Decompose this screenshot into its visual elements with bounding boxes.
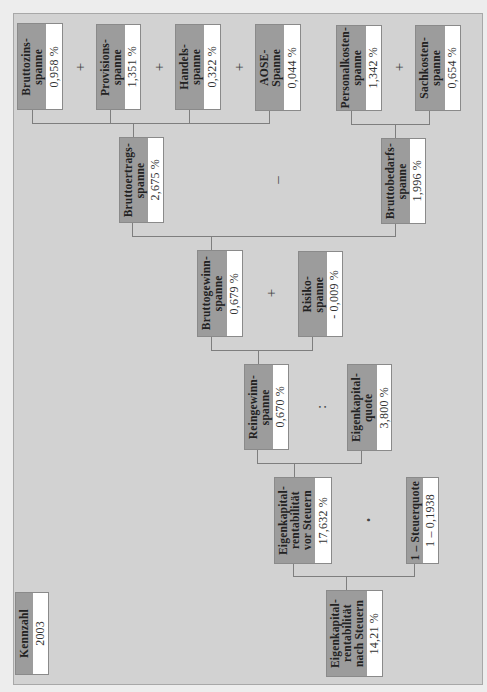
node-ek-rentabilitaet-vor-steuern: Eigenkapital- rentabilität vor Steuern 1… xyxy=(274,477,332,564)
node-value: 3,800 % xyxy=(378,387,391,428)
node-reingewinnspanne: Reingewinn- spanne 0,670 % xyxy=(244,364,289,450)
legend-kennzahl: Kennzahl 2003 xyxy=(15,592,49,675)
plus-operator: + xyxy=(232,60,246,74)
node-value: 17,632 % xyxy=(317,497,330,545)
legend-label: Kennzahl xyxy=(18,609,30,658)
node-value: 1 – 0,1938 xyxy=(424,494,437,547)
node-label: Risiko- spanne xyxy=(301,276,325,313)
node-value: 0,322 % xyxy=(206,46,219,87)
connector xyxy=(351,124,430,125)
node-value: 0,679 % xyxy=(228,273,241,314)
node-value: 0,654 % xyxy=(446,47,459,88)
node-risikospanne: Risiko- spanne - 0,009 % xyxy=(298,251,343,337)
node-bruttogewinnspanne: Bruttogewinn- spanne 0,679 % xyxy=(197,250,243,337)
node-value: 0,670 % xyxy=(274,386,287,427)
node-value: 1,342 % xyxy=(367,47,380,88)
node-value: 0,044 % xyxy=(286,47,299,88)
node-label: Provisions- spanne xyxy=(99,39,123,96)
node-personalkostenspanne: Personalkosten- spanne 1,342 % xyxy=(336,25,382,111)
connector xyxy=(395,124,396,138)
connector xyxy=(312,337,313,350)
connector xyxy=(32,123,270,124)
connector xyxy=(110,110,111,124)
plus-operator: + xyxy=(152,60,166,74)
node-value: - 0,009 % xyxy=(328,270,341,319)
plus-operator: + xyxy=(264,286,278,300)
node-label: 1 – Steuerquote xyxy=(409,481,421,560)
connector xyxy=(361,451,362,463)
connector xyxy=(351,111,352,125)
node-label: Personalkosten- spanne xyxy=(339,27,363,109)
connector xyxy=(132,236,396,237)
node-ek-rentabilitaet-nach-steuern: Eigenkapital- rentabilität nach Steuern … xyxy=(326,590,383,677)
node-value: 2,675 % xyxy=(149,159,162,200)
connector xyxy=(133,123,134,137)
node-steuerquote: 1 – Steuerquote 1 – 0,1938 xyxy=(406,477,439,564)
node-provisionsspanne: Provisions- spanne 1,351 % xyxy=(96,24,141,110)
node-label: Eigenkapital- rentabilität nach Steuern xyxy=(329,599,365,668)
node-label: AOSE- Spanne xyxy=(258,49,282,87)
node-label: Bruttobedarfs- spanne xyxy=(384,143,408,219)
node-sachkostenspanne: Sachkosten- spanne 0,654 % xyxy=(415,25,461,111)
node-bruttobedarfsspanne: Bruttobedarfs- spanne 1,996 % xyxy=(381,138,426,224)
connector xyxy=(257,463,362,464)
node-value: 0,958 % xyxy=(48,46,61,87)
connector xyxy=(132,223,133,237)
connector xyxy=(293,576,415,577)
node-label: Bruttozins- spanne xyxy=(20,38,44,96)
plus-operator: + xyxy=(73,60,87,74)
plus-operator: + xyxy=(392,60,406,74)
node-handelsspanne: Handels- spanne 0,322 % xyxy=(175,24,221,110)
connector xyxy=(429,111,430,125)
node-aose-spanne: AOSE- Spanne 0,044 % xyxy=(255,24,301,111)
connector xyxy=(189,110,190,124)
connector xyxy=(211,236,212,250)
node-value: 14,21 % xyxy=(368,613,381,654)
divide-operator: : xyxy=(314,400,328,414)
node-label: Eigenkapital- quote xyxy=(350,373,374,442)
node-value: 1,996 % xyxy=(411,160,424,201)
node-label: Bruttogewinn- spanne xyxy=(200,256,224,330)
node-eigenkapitalquote: Eigenkapital- quote 3,800 % xyxy=(347,364,392,451)
node-label: Sachkosten- spanne xyxy=(418,37,442,99)
connector xyxy=(346,576,347,590)
node-bruttozinsspanne: Bruttozins- spanne 0,958 % xyxy=(17,23,63,110)
diagram-panel xyxy=(13,13,483,685)
connector xyxy=(211,350,313,351)
node-value: 1,351 % xyxy=(126,46,139,87)
node-label: Handels- spanne xyxy=(178,44,202,90)
node-label: Reingewinn- spanne xyxy=(247,375,271,439)
connector xyxy=(211,337,212,350)
connector xyxy=(32,110,33,124)
connector xyxy=(258,350,259,364)
node-label: Bruttoertrags- spanne xyxy=(122,143,146,217)
connector xyxy=(257,450,258,463)
legend-value: 2003 xyxy=(34,621,47,646)
node-label: Eigenkapital- rentabilität vor Steuern xyxy=(277,486,313,555)
minus-operator: – xyxy=(270,173,284,187)
multiply-operator: • xyxy=(362,513,376,527)
node-bruttoertragsspanne: Bruttoertrags- spanne 2,675 % xyxy=(119,137,164,223)
connector xyxy=(294,463,295,477)
